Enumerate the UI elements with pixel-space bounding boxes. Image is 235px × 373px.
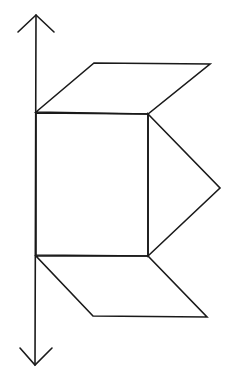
top-parallelogram (36, 63, 210, 114)
triangle-face (148, 114, 220, 256)
bottom-parallelogram (36, 256, 207, 317)
square-face (36, 113, 148, 256)
geometry-diagram (0, 0, 235, 373)
arrowhead-down-icon (20, 348, 52, 365)
